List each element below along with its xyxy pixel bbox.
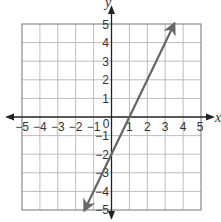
svg-text:−1: −1 xyxy=(95,129,109,143)
svg-text:−4: −4 xyxy=(33,120,47,134)
svg-text:2: 2 xyxy=(102,73,109,87)
svg-text:−5: −5 xyxy=(95,203,109,217)
svg-text:2: 2 xyxy=(144,120,151,134)
svg-text:4: 4 xyxy=(102,36,109,50)
svg-text:3: 3 xyxy=(102,55,109,69)
svg-text:4: 4 xyxy=(180,120,187,134)
x-tick-labels: −5 −4 −3 −2 −1 0 1 2 3 4 5 xyxy=(15,117,204,134)
svg-text:1: 1 xyxy=(102,92,109,106)
svg-text:−4: −4 xyxy=(95,185,109,199)
svg-text:5: 5 xyxy=(102,18,109,32)
svg-text:−2: −2 xyxy=(69,120,83,134)
svg-text:−2: −2 xyxy=(95,148,109,162)
svg-text:−5: −5 xyxy=(15,120,29,134)
x-axis-label: x xyxy=(214,110,221,125)
svg-text:3: 3 xyxy=(162,120,169,134)
svg-text:5: 5 xyxy=(197,120,204,134)
svg-text:−3: −3 xyxy=(51,120,65,134)
y-axis-label: y xyxy=(103,0,112,10)
coordinate-plane: x y −5 −4 −3 −2 −1 0 1 2 3 4 5 5 4 3 2 1… xyxy=(0,0,221,222)
